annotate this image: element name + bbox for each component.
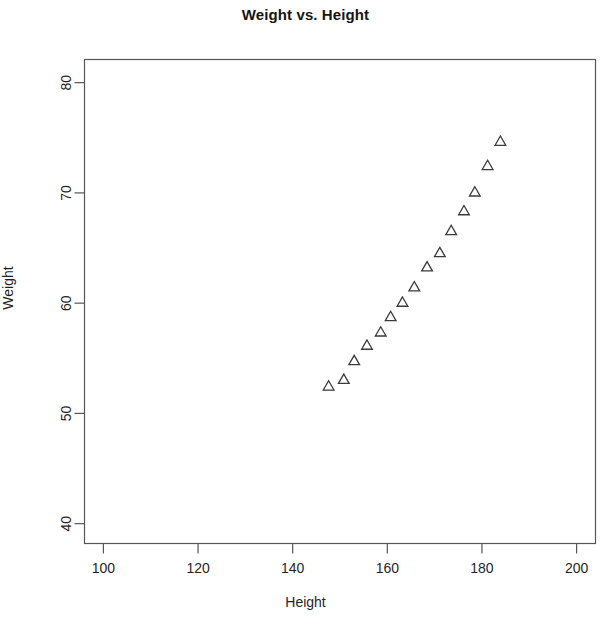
data-point-marker xyxy=(349,355,360,364)
data-point-marker xyxy=(397,297,408,306)
x-tick-label: 200 xyxy=(565,560,589,576)
data-point-marker xyxy=(469,187,480,196)
data-point-marker xyxy=(422,262,433,271)
y-tick-label: 60 xyxy=(59,295,75,311)
data-point-marker xyxy=(495,136,506,145)
data-point-marker xyxy=(338,374,349,383)
x-tick-label: 100 xyxy=(92,560,116,576)
data-point-marker xyxy=(482,160,493,169)
plot-canvas: 4050607080 100120140160180200 xyxy=(0,0,611,627)
y-tick-label: 40 xyxy=(59,516,75,532)
y-tick-label: 80 xyxy=(59,75,75,91)
x-axis-ticks: 100120140160180200 xyxy=(92,544,589,576)
data-point-marker xyxy=(409,282,420,291)
y-tick-label: 70 xyxy=(59,185,75,201)
data-point-marker xyxy=(323,381,334,390)
data-point-marker xyxy=(446,225,457,234)
plot-border xyxy=(85,60,596,544)
scatter-plot-figure: Weight vs. Height Weight Height 40506070… xyxy=(0,0,611,627)
plot-frame xyxy=(85,60,596,544)
x-tick-label: 180 xyxy=(470,560,494,576)
y-tick-label: 50 xyxy=(59,405,75,421)
data-point-marker xyxy=(459,205,470,214)
data-point-marker xyxy=(385,311,396,320)
x-tick-label: 160 xyxy=(376,560,400,576)
x-tick-label: 120 xyxy=(186,560,210,576)
data-point-marker xyxy=(375,327,386,336)
data-point-marker xyxy=(434,247,445,256)
x-tick-label: 140 xyxy=(281,560,305,576)
data-point-group xyxy=(323,136,505,390)
y-axis-ticks: 4050607080 xyxy=(59,75,85,532)
data-point-marker xyxy=(362,340,373,349)
